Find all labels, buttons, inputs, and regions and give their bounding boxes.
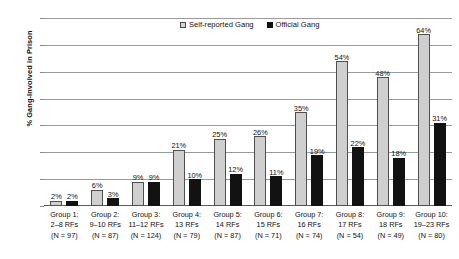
x-axis-group-label: Group 7:16 RFs(N = 74): [289, 210, 330, 241]
x-axis-label-line: Group 5:: [207, 210, 248, 220]
bar-value-label: 18%: [391, 150, 406, 157]
bar-self-reported[interactable]: 2%: [50, 201, 62, 206]
x-axis-labels: Group 1:2–8 RFs(N = 97)Group 2:9–10 RFs(…: [44, 210, 452, 241]
x-axis-label-line: (N = 87): [85, 231, 126, 241]
bar-official[interactable]: 2%: [66, 201, 78, 206]
x-axis-group-label: Group 8:17 RFs(N = 54): [330, 210, 371, 241]
x-axis-label-line: (N = 79): [166, 231, 207, 241]
bar-official[interactable]: 3%: [107, 198, 119, 206]
x-axis-label-line: Group 10:: [411, 210, 452, 220]
x-axis-label-line: Group 8:: [330, 210, 371, 220]
x-axis-group-label: Group 2:9–10 RFs(N = 87): [85, 210, 126, 241]
gang-involvement-bar-chart: % Gang-Involved in Prison 70%60%50%40%30…: [0, 0, 459, 259]
bar-official[interactable]: 22%: [352, 147, 364, 206]
x-axis-label-line: 14 RFs: [207, 220, 248, 230]
bar-official[interactable]: 9%: [148, 182, 160, 206]
x-axis-label-line: 19–23 RFs: [411, 220, 452, 230]
bar-group: 48%18%: [370, 18, 411, 206]
bar-value-label: 64%: [416, 27, 431, 34]
x-axis-label-line: (N = 97): [44, 231, 85, 241]
bar-official[interactable]: 12%: [230, 174, 242, 206]
x-axis-label-line: (N = 87): [207, 231, 248, 241]
bar-value-label: 6%: [92, 182, 103, 189]
x-axis-label-line: Group 3:: [126, 210, 167, 220]
bar-value-label: 54%: [335, 54, 350, 61]
bar-group: 54%22%: [330, 18, 371, 206]
bar-official[interactable]: 19%: [311, 155, 323, 206]
x-axis-label-line: (N = 80): [411, 231, 452, 241]
bar-value-label: 12%: [228, 166, 243, 173]
x-axis-label-line: Group 6:: [248, 210, 289, 220]
x-axis-group-label: Group 3:11–12 RFs(N = 124): [126, 210, 167, 241]
bar-group: 6%3%: [85, 18, 126, 206]
x-axis-group-label: Group 5:14 RFs(N = 87): [207, 210, 248, 241]
bar-self-reported[interactable]: 35%: [295, 112, 307, 206]
bar-group: 35%19%: [289, 18, 330, 206]
bar-value-label: 21%: [171, 142, 186, 149]
bar-value-label: 35%: [294, 105, 309, 112]
x-axis-label-line: 2–8 RFs: [44, 220, 85, 230]
bar-groups: 2%2%6%3%9%9%21%10%25%12%26%11%35%19%54%2…: [44, 18, 452, 206]
bar-self-reported[interactable]: 9%: [132, 182, 144, 206]
bar-self-reported[interactable]: 25%: [214, 139, 226, 206]
y-axis-tick-mark: [40, 206, 44, 207]
bar-value-label: 31%: [432, 115, 447, 122]
bar-value-label: 9%: [149, 174, 160, 181]
bar-self-reported[interactable]: 21%: [173, 150, 185, 206]
bar-group: 21%10%: [166, 18, 207, 206]
x-axis-label-line: 16 RFs: [289, 220, 330, 230]
bar-official[interactable]: 18%: [393, 158, 405, 206]
bar-official[interactable]: 11%: [270, 176, 282, 206]
x-axis-label-line: (N = 124): [126, 231, 167, 241]
x-axis-label-line: 18 RFs: [370, 220, 411, 230]
bar-value-label: 3%: [108, 191, 119, 198]
x-axis-label-line: 17 RFs: [330, 220, 371, 230]
x-axis-group-label: Group 6:15 RFs(N = 71): [248, 210, 289, 241]
bar-self-reported[interactable]: 26%: [254, 136, 266, 206]
x-axis-label-line: 13 RFs: [166, 220, 207, 230]
x-axis-label-line: 15 RFs: [248, 220, 289, 230]
bar-self-reported[interactable]: 64%: [418, 34, 430, 206]
bar-official[interactable]: 10%: [189, 179, 201, 206]
x-axis-group-label: Group 4:13 RFs(N = 79): [166, 210, 207, 241]
bar-value-label: 2%: [51, 193, 62, 200]
bar-self-reported[interactable]: 6%: [91, 190, 103, 206]
x-axis-label-line: Group 9:: [370, 210, 411, 220]
bar-value-label: 9%: [133, 174, 144, 181]
x-axis-label-line: Group 2:: [85, 210, 126, 220]
bar-value-label: 48%: [375, 70, 390, 77]
x-axis-label-line: Group 7:: [289, 210, 330, 220]
x-axis-label-line: (N = 74): [289, 231, 330, 241]
bar-value-label: 10%: [187, 172, 202, 179]
bar-group: 9%9%: [126, 18, 167, 206]
bar-value-label: 2%: [67, 193, 78, 200]
x-axis-group-label: Group 10:19–23 RFs(N = 80): [411, 210, 452, 241]
x-axis-label-line: (N = 54): [330, 231, 371, 241]
bar-value-label: 11%: [269, 169, 283, 176]
bar-group: 25%12%: [207, 18, 248, 206]
bar-group: 2%2%: [44, 18, 85, 206]
bar-official[interactable]: 31%: [434, 123, 446, 206]
bar-value-label: 22%: [351, 140, 366, 147]
x-axis-label-line: (N = 71): [248, 231, 289, 241]
x-axis-group-label: Group 9:18 RFs(N = 49): [370, 210, 411, 241]
x-axis-group-label: Group 1:2–8 RFs(N = 97): [44, 210, 85, 241]
y-axis-title: % Gang-Involved in Prison: [25, 4, 34, 154]
x-axis-label-line: Group 4:: [166, 210, 207, 220]
bar-self-reported[interactable]: 54%: [336, 61, 348, 206]
bar-self-reported[interactable]: 48%: [377, 77, 389, 206]
x-axis-label-line: Group 1:: [44, 210, 85, 220]
bar-group: 64%31%: [411, 18, 452, 206]
x-axis-label-line: (N = 49): [370, 231, 411, 241]
x-axis-label-line: 11–12 RFs: [126, 220, 167, 230]
bar-value-label: 19%: [310, 148, 325, 155]
x-axis-label-line: 9–10 RFs: [85, 220, 126, 230]
bar-value-label: 25%: [212, 131, 227, 138]
bar-value-label: 26%: [253, 129, 268, 136]
bar-group: 26%11%: [248, 18, 289, 206]
